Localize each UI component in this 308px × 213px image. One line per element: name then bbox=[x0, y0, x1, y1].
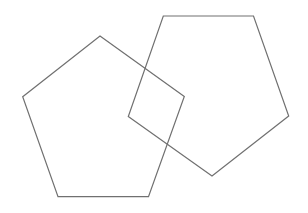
diagram-canvas bbox=[0, 0, 308, 213]
